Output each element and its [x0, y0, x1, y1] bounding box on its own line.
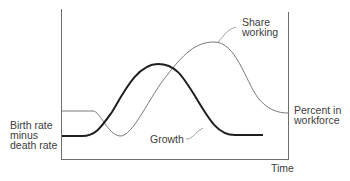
growth-label: Growth — [150, 134, 184, 144]
left-axis-label-line: death rate — [10, 140, 57, 150]
left-axis-label: Birth rate minus death rate — [10, 120, 57, 150]
share-working-label: Share working — [242, 17, 278, 37]
growth-leader — [186, 128, 203, 139]
right-axis-label: Percent in workforce — [294, 105, 341, 125]
share-leader — [218, 27, 236, 42]
share-label-line: working — [242, 27, 278, 37]
chart-canvas — [0, 0, 350, 181]
right-axis-label-line: workforce — [294, 115, 341, 125]
x-axis-label: Time — [271, 163, 294, 173]
growth-line — [62, 64, 263, 136]
share-working-line — [62, 42, 288, 136]
